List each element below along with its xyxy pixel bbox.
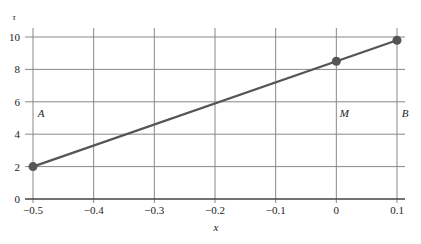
y-tick-label: 8 <box>15 63 21 75</box>
x-tick-label: −0.1 <box>266 204 286 216</box>
annotation-b: B <box>402 107 409 119</box>
y-tick-label: 0 <box>15 193 21 205</box>
y-tick-label: 4 <box>15 128 21 140</box>
point-marker-m <box>332 57 341 66</box>
x-tick-label: −0.5 <box>23 204 43 216</box>
y-axis-label: τ <box>12 12 16 22</box>
y-tick-label: 6 <box>15 96 21 108</box>
annotation-m: M <box>339 107 350 119</box>
x-tick-labels: −0.5−0.4−0.3−0.2−0.100.1 <box>23 204 404 216</box>
line-chart: −0.5−0.4−0.3−0.2−0.100.1 0246810 AMB x τ <box>0 0 421 244</box>
annotation-a: A <box>37 107 45 119</box>
x-tick-label: −0.3 <box>144 204 164 216</box>
point-annotations: AMB <box>37 107 409 119</box>
x-tick-label: −0.2 <box>205 204 225 216</box>
x-tick-label: 0 <box>334 204 340 216</box>
x-axis-label: x <box>213 221 219 233</box>
x-tick-label: −0.4 <box>84 204 104 216</box>
y-tick-labels: 0246810 <box>9 31 21 205</box>
x-tick-label: 0.1 <box>390 204 404 216</box>
y-tick-label: 2 <box>15 161 21 173</box>
point-marker-b <box>393 36 402 45</box>
point-marker-a <box>29 162 38 171</box>
y-tick-label: 10 <box>9 31 21 43</box>
